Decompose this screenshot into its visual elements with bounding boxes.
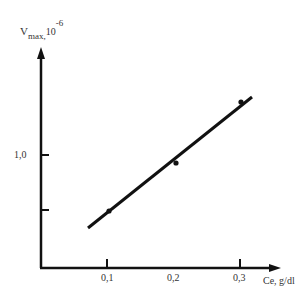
y-label-base: 10 [46,26,56,37]
y-label-main: V [20,25,28,37]
data-point [238,99,243,104]
x-label-rest: , g/dl [274,275,295,286]
data-point [106,208,111,213]
fit-line [88,97,252,228]
x-tick-label: 0,3 [233,272,246,283]
y-axis-arrow-icon [37,47,45,59]
data-point [173,160,178,165]
x-tick-label: 0,2 [167,272,180,283]
x-tick-label: 0,1 [101,272,114,283]
y-tick-label: 1,0 [14,149,27,160]
x-axis-arrow-icon [269,264,281,272]
y-label-sub: max, [28,31,46,41]
y-label-sup: -6 [56,18,64,28]
chart-canvas [0,0,307,297]
x-axis-label: Ce, g/dl [263,275,295,286]
x-label-main: Ce [263,275,274,286]
y-axis-label: Vmax,10-6 [20,22,63,37]
